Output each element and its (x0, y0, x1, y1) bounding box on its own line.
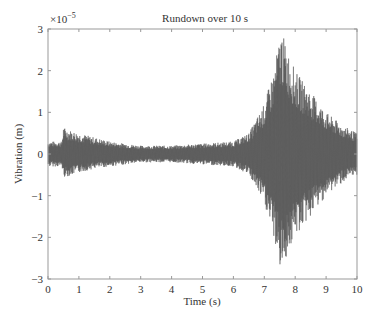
signal-trace (48, 38, 357, 264)
multiplier-exponent: −5 (67, 11, 76, 20)
chart-title: Rundown over 10 s (162, 12, 248, 24)
x-tick-label: 10 (352, 283, 364, 295)
x-tick-label: 2 (107, 283, 113, 295)
vibration-signal (48, 38, 357, 264)
y-tick-label: −2 (31, 231, 43, 243)
y-tick-label: 1 (38, 106, 44, 118)
y-tick-label: 2 (38, 65, 44, 77)
y-axis-label: Vibration (m) (12, 124, 25, 184)
y-tick-label: 3 (38, 23, 44, 35)
x-tick-label: 1 (76, 283, 82, 295)
y-tick-label: −1 (31, 190, 43, 202)
multiplier-base: ×10 (50, 13, 68, 25)
x-tick-label: 4 (169, 283, 175, 295)
y-tick-label: 0 (38, 148, 44, 160)
x-tick-label: 7 (262, 283, 268, 295)
x-tick-label: 0 (45, 283, 51, 295)
chart: 012345678910 3210−1−2−3 Rundown over 10 … (0, 0, 378, 322)
x-tick-label: 6 (231, 283, 237, 295)
x-tick-label: 3 (138, 283, 144, 295)
x-tick-label: 5 (200, 283, 206, 295)
x-tick-label: 9 (323, 283, 329, 295)
x-tick-label: 8 (292, 283, 298, 295)
y-multiplier: ×10−5 (50, 11, 76, 25)
y-tick-label: −3 (31, 273, 43, 285)
x-axis-label: Time (s) (183, 295, 221, 308)
